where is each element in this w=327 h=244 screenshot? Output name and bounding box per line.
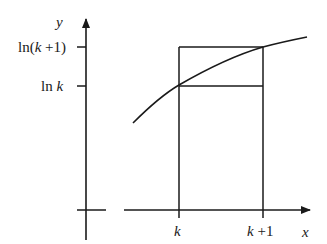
diagram-canvas <box>0 0 327 244</box>
ln-curve <box>133 37 307 123</box>
x-tick-label-k-plus-1: k +1 <box>247 224 273 239</box>
x-axis-label: x <box>302 225 309 240</box>
y-tick-label-ln-k-plus-1: ln(k +1) <box>18 40 66 55</box>
ln-integral-bound-diagram: y ln(k +1) ln k k k +1 x <box>0 0 327 244</box>
y-axis-label: y <box>56 15 63 30</box>
y-tick-label-ln-k: ln k <box>41 79 63 94</box>
x-tick-label-k: k <box>174 224 181 239</box>
